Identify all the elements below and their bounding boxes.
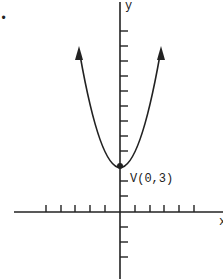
vertex-label: V(0,3) bbox=[130, 173, 173, 185]
right-arrowhead-icon bbox=[157, 46, 165, 60]
y-axis-label: y bbox=[125, 0, 132, 12]
y-axis-ticks bbox=[120, 31, 128, 257]
parabola-graph bbox=[0, 0, 223, 279]
left-arrowhead-icon bbox=[75, 46, 83, 60]
bullet-mark: • bbox=[0, 13, 7, 25]
vertex-point bbox=[117, 163, 123, 169]
x-axis-label: x bbox=[219, 216, 223, 228]
